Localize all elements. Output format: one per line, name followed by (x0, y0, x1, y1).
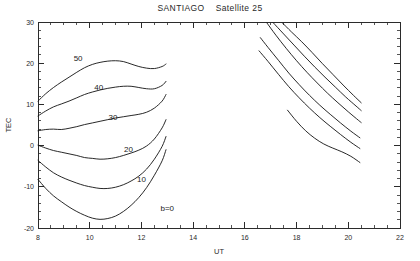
curve-annotation-label: b=0 (160, 204, 174, 213)
chart-plot-svg: 810121416182022-20-100102030 5040302010b… (0, 0, 420, 261)
curve-annotation-label: 10 (137, 175, 146, 184)
axes-group: 810121416182022-20-100102030 (24, 19, 404, 241)
curve-annotation-label: 20 (124, 145, 133, 154)
x-tick-label: 12 (138, 234, 146, 241)
data-curve (38, 120, 166, 160)
curve-annotation-label: 50 (74, 54, 83, 63)
data-curve (260, 38, 360, 138)
data-curve (273, 23, 361, 111)
data-curve (38, 150, 166, 220)
y-tick-label: -10 (24, 183, 34, 190)
y-tick-label: 10 (26, 101, 34, 108)
data-curve (282, 23, 361, 103)
y-axis-title: TEC (4, 117, 13, 133)
plot-frame (38, 22, 400, 228)
curve-labels-group: 5040302010b=0 (74, 54, 175, 213)
x-axis-title: UT (214, 247, 224, 256)
curves-group (38, 23, 361, 220)
x-tick-label: 14 (189, 234, 197, 241)
x-tick-label: 22 (396, 234, 404, 241)
y-tick-label: 0 (30, 142, 34, 149)
chart-figure: SANTIAGO Satellite 25 810121416182022-20… (0, 0, 420, 261)
y-tick-label: 20 (26, 60, 34, 67)
curve-annotation-label: 40 (94, 83, 103, 92)
x-tick-label: 16 (241, 234, 249, 241)
x-tick-label: 20 (344, 234, 352, 241)
x-tick-label: 18 (293, 234, 301, 241)
x-tick-label: 8 (36, 234, 40, 241)
x-tick-label: 10 (86, 234, 94, 241)
curve-annotation-label: 30 (109, 113, 118, 122)
data-curve (38, 61, 166, 101)
data-curve (38, 137, 166, 189)
y-tick-label: -20 (24, 225, 34, 232)
y-tick-label: 30 (26, 19, 34, 26)
data-curve (38, 95, 166, 131)
data-curve (267, 23, 361, 123)
data-curve (288, 110, 360, 162)
